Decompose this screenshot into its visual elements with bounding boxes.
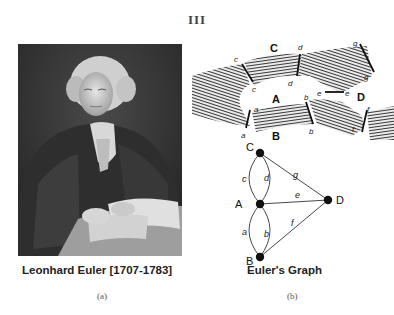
svg-text:B: B xyxy=(272,130,280,140)
panel-a-label: (a) xyxy=(97,291,107,301)
svg-text:b: b xyxy=(304,93,309,102)
node-c xyxy=(256,149,264,157)
svg-text:c: c xyxy=(252,85,256,94)
node-d xyxy=(324,196,332,204)
svg-text:g: g xyxy=(353,39,358,48)
svg-text:b: b xyxy=(264,229,269,239)
svg-text:f: f xyxy=(291,218,295,228)
svg-text:A: A xyxy=(235,198,243,210)
figure-number: III xyxy=(0,12,394,28)
graph-caption: Euler's Graph xyxy=(247,264,322,276)
svg-text:e: e xyxy=(295,190,300,200)
panel-b-label: (b) xyxy=(287,291,298,301)
node-a xyxy=(256,200,264,208)
svg-text:g: g xyxy=(364,73,369,82)
konigsberg-bridges-map: c c d d a a b b e e g g f f C A B D xyxy=(192,36,394,140)
node-b xyxy=(256,253,264,261)
svg-text:a: a xyxy=(241,131,246,140)
svg-text:c: c xyxy=(242,174,247,184)
svg-text:c: c xyxy=(234,55,238,64)
svg-text:d: d xyxy=(264,173,270,183)
svg-text:a: a xyxy=(242,227,247,237)
svg-text:a: a xyxy=(254,105,259,114)
svg-text:e: e xyxy=(317,89,322,98)
svg-text:d: d xyxy=(288,79,293,88)
svg-text:A: A xyxy=(272,93,280,105)
portrait-caption: Leonhard Euler [1707-1783] xyxy=(22,264,172,276)
svg-text:b: b xyxy=(309,127,314,136)
svg-text:g: g xyxy=(293,170,298,180)
euler-graph: C A B D c d a b e g f xyxy=(228,140,358,265)
svg-text:d: d xyxy=(298,43,303,52)
svg-text:e: e xyxy=(345,89,350,98)
svg-text:D: D xyxy=(336,194,344,206)
svg-text:C: C xyxy=(270,42,278,54)
svg-text:D: D xyxy=(357,91,365,103)
euler-portrait xyxy=(18,44,182,256)
svg-text:C: C xyxy=(246,141,254,153)
